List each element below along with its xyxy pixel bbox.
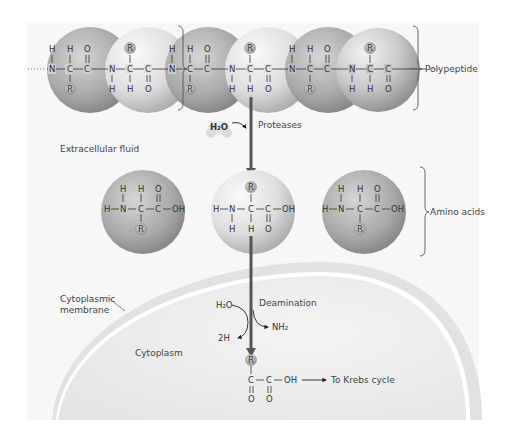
svg-text:O: O	[266, 394, 273, 404]
svg-text:H: H	[109, 84, 115, 94]
svg-text:C: C	[307, 64, 313, 74]
svg-text:OH: OH	[391, 204, 404, 214]
svg-text:C: C	[84, 64, 90, 74]
svg-text:H: H	[322, 204, 328, 214]
svg-text:N: N	[120, 204, 126, 214]
amino-acids-label: Amino acids	[430, 207, 485, 217]
svg-text:H: H	[127, 84, 133, 94]
svg-text:C: C	[204, 64, 210, 74]
svg-text:O: O	[265, 84, 272, 94]
svg-text:C: C	[265, 64, 271, 74]
svg-text:C: C	[67, 64, 73, 74]
membrane-label-2: membrane	[60, 305, 110, 315]
svg-text:C: C	[127, 64, 133, 74]
svg-text:NH₂: NH₂	[272, 322, 288, 332]
svg-text:H: H	[213, 204, 219, 214]
svg-text:OH: OH	[284, 375, 297, 385]
svg-text:H: H	[120, 184, 126, 194]
svg-text:N: N	[49, 64, 55, 74]
svg-text:H₂O: H₂O	[216, 300, 233, 310]
proteases-label: Proteases	[258, 120, 302, 130]
svg-text:C: C	[266, 375, 272, 385]
svg-text:O: O	[84, 44, 91, 54]
svg-text:H: H	[49, 44, 55, 54]
krebs-cycle-label: To Krebs cycle	[330, 375, 395, 385]
svg-text:C: C	[138, 204, 144, 214]
svg-text:C: C	[385, 64, 391, 74]
svg-text:C: C	[367, 64, 373, 74]
svg-text:N: N	[338, 204, 344, 214]
svg-text:O: O	[385, 84, 392, 94]
svg-text:C: C	[187, 64, 193, 74]
svg-text:C: C	[248, 375, 254, 385]
svg-text:C: C	[145, 64, 151, 74]
svg-text:H: H	[229, 84, 235, 94]
svg-text:N: N	[229, 64, 235, 74]
svg-text:R: R	[367, 43, 373, 53]
svg-text:H: H	[104, 204, 110, 214]
svg-text:R: R	[248, 355, 254, 365]
svg-text:H: H	[247, 84, 253, 94]
deamination-label: Deamination	[259, 298, 317, 308]
svg-text:R: R	[127, 43, 133, 53]
svg-text:H: H	[338, 184, 344, 194]
svg-text:H: H	[248, 224, 254, 234]
ellipsis-right: ···	[409, 64, 418, 74]
svg-text:O: O	[324, 44, 331, 54]
svg-text:H: H	[307, 44, 313, 54]
svg-text:O: O	[204, 44, 211, 54]
svg-text:C: C	[247, 64, 253, 74]
diagram-canvas: N H C H R C O N H C R H	[0, 0, 509, 427]
svg-text:C: C	[155, 204, 161, 214]
cytoplasm-label: Cytoplasm	[135, 348, 183, 358]
svg-text:N: N	[229, 204, 235, 214]
svg-text:R: R	[187, 84, 193, 94]
svg-text:H: H	[349, 84, 355, 94]
svg-text:H: H	[138, 184, 144, 194]
svg-text:R: R	[247, 43, 253, 53]
svg-text:H: H	[367, 84, 373, 94]
svg-text:N: N	[349, 64, 355, 74]
svg-text:H: H	[357, 184, 363, 194]
svg-text:R: R	[138, 224, 144, 234]
svg-text:O: O	[145, 84, 152, 94]
svg-text:OH: OH	[172, 204, 185, 214]
svg-text:N: N	[109, 64, 115, 74]
svg-text:N: N	[289, 64, 295, 74]
svg-text:C: C	[248, 204, 254, 214]
svg-text:2H: 2H	[218, 333, 230, 343]
svg-text:O: O	[248, 394, 255, 404]
svg-text:H: H	[229, 224, 235, 234]
svg-text:C: C	[374, 204, 380, 214]
svg-text:C: C	[324, 64, 330, 74]
svg-text:H: H	[169, 44, 175, 54]
svg-text:O: O	[155, 184, 162, 194]
membrane-label-1: Cytoplasmic	[60, 294, 115, 304]
polypeptide-label: Polypeptide	[425, 64, 478, 74]
svg-text:H: H	[67, 44, 73, 54]
svg-text:O: O	[374, 184, 381, 194]
svg-text:C: C	[357, 204, 363, 214]
svg-text:R: R	[67, 84, 73, 94]
extracellular-fluid-label: Extracellular fluid	[60, 144, 139, 154]
svg-text:R: R	[307, 84, 313, 94]
svg-text:C: C	[265, 204, 271, 214]
svg-text:H₂O: H₂O	[210, 122, 228, 132]
svg-text:N: N	[169, 64, 175, 74]
svg-text:H: H	[289, 44, 295, 54]
svg-text:R: R	[357, 224, 363, 234]
svg-text:OH: OH	[282, 204, 295, 214]
svg-text:H: H	[187, 44, 193, 54]
svg-text:O: O	[265, 224, 272, 234]
svg-text:R: R	[248, 182, 254, 192]
